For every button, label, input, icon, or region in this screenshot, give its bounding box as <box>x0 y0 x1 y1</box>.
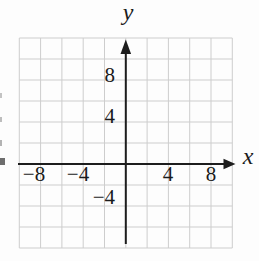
y-tick-label-4: 4 <box>105 106 116 127</box>
y-axis <box>121 40 132 245</box>
coordinate-plane-figure: 8 4 −4 −8 −4 4 8 y x <box>0 0 259 261</box>
x-tick-label-8: 8 <box>206 164 217 185</box>
scan-artifact <box>0 158 5 165</box>
coordinate-grid <box>0 0 259 261</box>
y-axis-label: y <box>123 0 134 24</box>
x-tick-label-neg8: −8 <box>23 164 45 185</box>
y-tick-label-8: 8 <box>105 65 116 86</box>
scan-artifact <box>0 140 2 146</box>
x-tick-label-neg4: −4 <box>67 164 89 185</box>
scan-artifact <box>0 93 2 98</box>
y-tick-label-neg4: −4 <box>93 187 115 208</box>
x-axis-label: x <box>243 144 254 168</box>
scan-artifact <box>0 117 2 122</box>
x-tick-label-4: 4 <box>163 164 174 185</box>
